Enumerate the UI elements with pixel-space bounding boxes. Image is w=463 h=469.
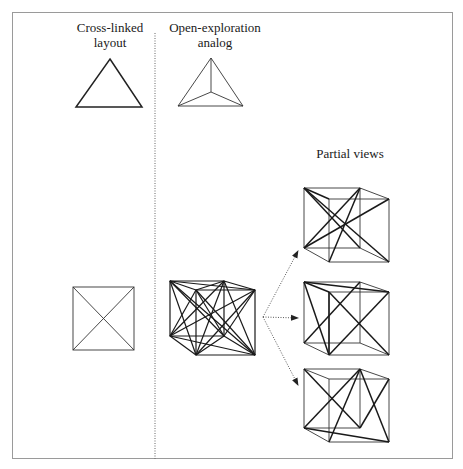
partial-view-3-icon — [304, 369, 389, 442]
arrow-to-view-2 — [263, 317, 298, 318]
arrow-to-view-3 — [263, 317, 298, 385]
partial-view-1-icon — [304, 188, 389, 262]
connected-cube-icon — [170, 281, 255, 355]
arrow-to-view-1 — [263, 251, 298, 317]
partial-view-2-icon — [304, 282, 389, 355]
tetrahedron-icon — [178, 58, 243, 106]
square-diagonals-icon — [73, 287, 134, 350]
arrows — [263, 251, 298, 385]
diagram-canvas — [0, 0, 463, 469]
triangle-icon — [76, 59, 142, 107]
